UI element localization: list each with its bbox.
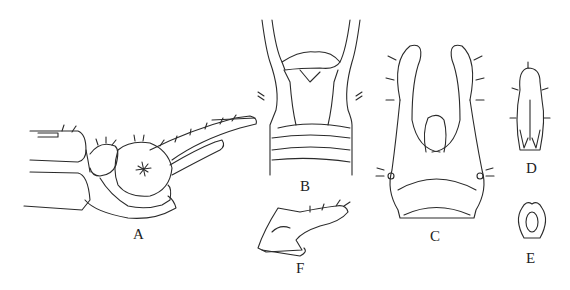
panel-f-drawing [258, 200, 350, 256]
panel-b-drawing [258, 20, 362, 175]
illustration-drawing [0, 0, 570, 290]
panel-label-d: D [526, 160, 537, 177]
panel-a-drawing [24, 115, 256, 218]
panel-e-drawing [518, 203, 545, 238]
panel-label-c: C [430, 228, 440, 245]
figure: A B C D E F [0, 0, 570, 290]
panel-label-a: A [133, 226, 144, 243]
panel-label-f: F [296, 260, 304, 277]
panel-d-drawing [510, 62, 550, 150]
panel-label-e: E [526, 250, 535, 267]
panel-c-drawing [376, 45, 494, 218]
panel-label-b: B [300, 178, 310, 195]
